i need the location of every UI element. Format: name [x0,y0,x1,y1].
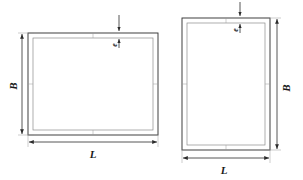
frame-miter-joints [182,18,270,150]
dimension-label-e-thickness: e [231,28,240,32]
frame-miter-joints [28,33,158,135]
view-landscape-frame: B L e [7,15,158,160]
view-portrait-frame: B L e [182,2,292,176]
dimension-label-b-left: B [7,82,19,90]
dimension-label-l-bottom: L [89,148,97,160]
technical-drawing-canvas: B L e [0,0,303,180]
dimension-label-b-right: B [280,84,292,92]
frame-inner-outline [33,38,153,130]
frame-outer-outline [28,33,158,135]
frame-outer-outline [182,18,270,150]
frame-inner-outline [187,23,265,145]
dimension-label-e-thickness: e [110,43,119,47]
drawing-svg: B L e [0,0,303,180]
dimension-label-l-bottom: L [220,164,228,176]
